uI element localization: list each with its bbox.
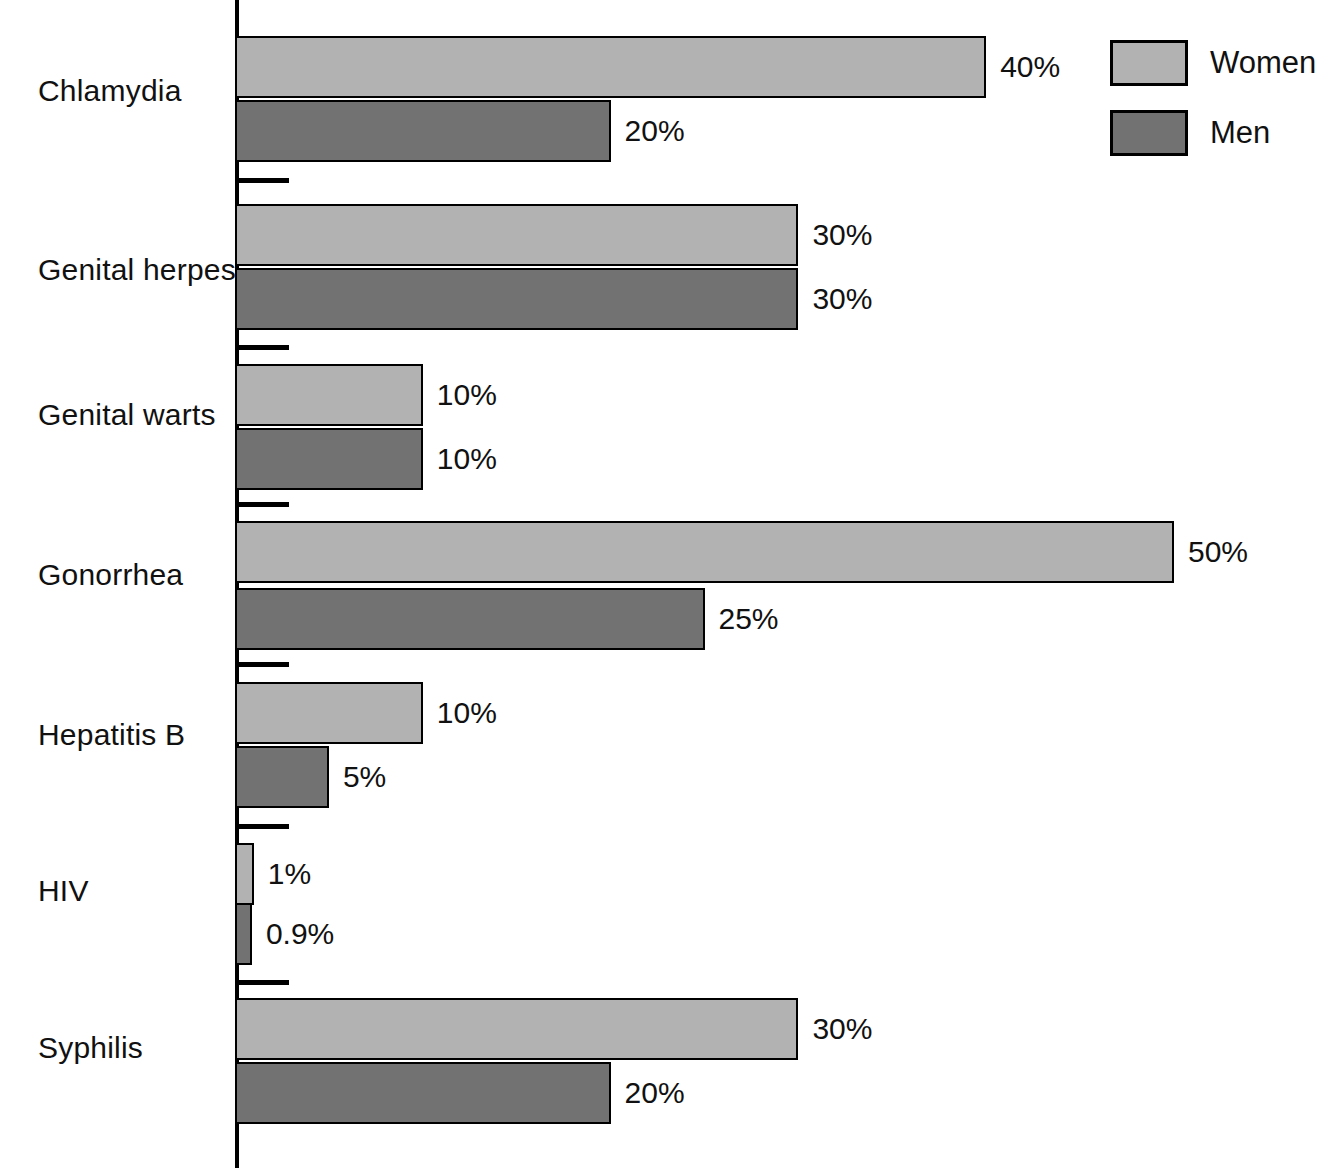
value-label-genital-warts-women: 10% xyxy=(437,364,497,426)
axis-tick-6 xyxy=(237,980,289,985)
value-label-gonorrhea-men: 25% xyxy=(719,588,779,650)
value-label-genital-warts-men: 10% xyxy=(437,428,497,490)
axis-tick-2 xyxy=(237,345,289,350)
bar-genital-herpes-men xyxy=(235,268,798,330)
category-label-genital-warts: Genital warts xyxy=(0,398,215,432)
bar-chlamydia-men xyxy=(235,100,611,162)
category-label-gonorrhea: Gonorrhea xyxy=(0,558,215,592)
bar-genital-warts-women xyxy=(235,364,423,426)
legend-swatch-women-icon xyxy=(1110,40,1188,86)
stacked-bar-chart: Chlamydia Genital herpes Genital warts G… xyxy=(0,0,1343,1168)
legend-swatch-men-icon xyxy=(1110,110,1188,156)
bar-genital-warts-men xyxy=(235,428,423,490)
legend-label-women: Women xyxy=(1210,45,1316,81)
category-label-syphilis: Syphilis xyxy=(0,1031,215,1065)
bar-syphilis-men xyxy=(235,1062,611,1124)
category-label-genital-herpes: Genital herpes xyxy=(0,253,215,287)
bar-gonorrhea-women xyxy=(235,521,1174,583)
value-label-genital-herpes-women: 30% xyxy=(812,204,872,266)
axis-tick-3 xyxy=(237,502,289,507)
value-label-hepatitis-b-men: 5% xyxy=(343,746,386,808)
axis-tick-4 xyxy=(237,662,289,667)
value-label-syphilis-men: 20% xyxy=(625,1062,685,1124)
bar-hepatitis-b-women xyxy=(235,682,423,744)
value-label-hiv-men: 0.9% xyxy=(266,903,334,965)
bar-hiv-women xyxy=(235,843,254,905)
category-label-chlamydia: Chlamydia xyxy=(0,74,215,108)
legend-label-men: Men xyxy=(1210,115,1270,151)
category-label-hiv: HIV xyxy=(0,874,215,908)
category-label-hepatitis-b: Hepatitis B xyxy=(0,718,215,752)
bar-gonorrhea-men xyxy=(235,588,705,650)
bar-genital-herpes-women xyxy=(235,204,798,266)
axis-tick-5 xyxy=(237,824,289,829)
value-label-hiv-women: 1% xyxy=(268,843,311,905)
legend-item-men: Men xyxy=(1110,108,1343,158)
value-label-chlamydia-men: 20% xyxy=(625,100,685,162)
value-label-chlamydia-women: 40% xyxy=(1000,36,1060,98)
value-label-hepatitis-b-women: 10% xyxy=(437,682,497,744)
value-label-syphilis-women: 30% xyxy=(812,998,872,1060)
bar-syphilis-women xyxy=(235,998,798,1060)
bar-hepatitis-b-men xyxy=(235,746,329,808)
value-label-gonorrhea-women: 50% xyxy=(1188,521,1248,583)
value-label-genital-herpes-men: 30% xyxy=(812,268,872,330)
category-axis-line xyxy=(235,0,239,1168)
chart-legend: Women Men xyxy=(1110,38,1343,178)
legend-item-women: Women xyxy=(1110,38,1343,88)
bar-chlamydia-women xyxy=(235,36,986,98)
axis-tick-1 xyxy=(237,178,289,183)
bar-hiv-men xyxy=(235,903,252,965)
